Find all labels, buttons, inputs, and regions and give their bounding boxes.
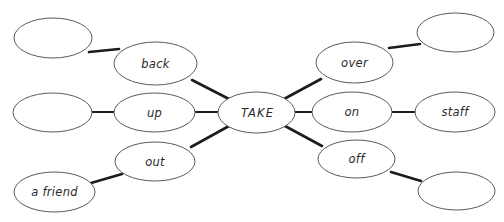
node-out[interactable]: out <box>115 142 195 181</box>
node-back[interactable]: back <box>114 42 197 85</box>
connector-take-over <box>284 79 321 99</box>
node-label: staff <box>441 105 470 119</box>
connector-take-back <box>192 80 229 99</box>
node-label: over <box>341 56 369 70</box>
node-label: back <box>141 57 171 71</box>
node-label: out <box>145 155 165 169</box>
connector-take-off <box>285 126 322 146</box>
mind-map-diagram: back up out a friend <box>0 0 504 222</box>
node-ellipse[interactable] <box>14 18 92 58</box>
node-back-object[interactable] <box>14 18 92 58</box>
node-on[interactable]: on <box>312 92 392 132</box>
node-label: off <box>348 152 366 166</box>
node-label: a friend <box>31 185 78 199</box>
node-off-object[interactable] <box>418 172 495 210</box>
node-over-object[interactable] <box>417 13 494 52</box>
node-layer: back up out a friend <box>13 13 495 212</box>
connector-take-out <box>191 126 229 147</box>
node-ellipse[interactable] <box>418 172 495 210</box>
node-up-object[interactable] <box>13 93 92 132</box>
connector-over-object <box>389 44 420 48</box>
connector-back-object <box>89 49 119 52</box>
node-up[interactable]: up <box>114 93 195 132</box>
connector-off-object <box>391 172 421 181</box>
node-over[interactable]: over <box>316 42 393 83</box>
node-ellipse[interactable] <box>13 93 92 132</box>
center-node-label: TAKE <box>241 106 274 120</box>
node-ellipse[interactable] <box>417 13 494 52</box>
connector-out-object <box>91 174 122 183</box>
mind-map-canvas: back up out a friend <box>0 0 504 222</box>
node-label: up <box>147 106 162 120</box>
node-on-object[interactable]: staff <box>415 92 495 132</box>
node-out-object[interactable]: a friend <box>14 172 95 212</box>
node-label: on <box>345 105 360 119</box>
node-off[interactable]: off <box>318 140 395 178</box>
node-take-center[interactable]: TAKE <box>218 92 295 133</box>
